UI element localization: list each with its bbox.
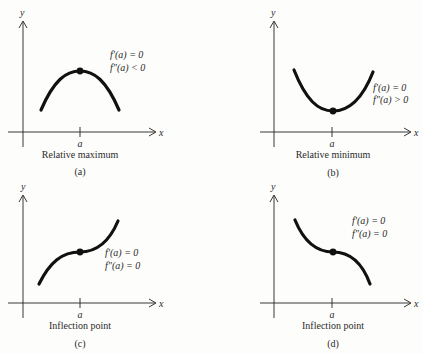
x-axis-label: x: [158, 127, 164, 138]
condition-second-derivative: f″(a) = 0: [105, 260, 140, 272]
y-axis-label: y: [270, 181, 276, 192]
panel-caption: Relative maximum: [42, 149, 119, 160]
condition-second-derivative: f″(a) < 0: [110, 62, 145, 74]
curve-concave-up: [294, 70, 373, 111]
panel-caption: Relative minimum: [296, 149, 371, 160]
x-axis-label: x: [413, 298, 419, 309]
condition-first-derivative: f′(a) = 0: [373, 82, 406, 94]
panel-d: y x a f′(a) = 0 f″(a) = 0 Inflection poi…: [260, 181, 419, 350]
condition-first-derivative: f′(a) = 0: [352, 215, 385, 227]
tick-label: a: [78, 309, 83, 320]
panel-caption: Inflection point: [49, 320, 111, 331]
critical-point-marker: [330, 249, 337, 256]
y-axis-label: y: [20, 181, 26, 192]
y-axis-label: y: [270, 7, 276, 18]
panel-c: y x a f′(a) = 0 f″(a) = 0 Inflection poi…: [8, 181, 164, 350]
critical-point-marker: [77, 68, 84, 75]
curve-concave-down: [41, 71, 119, 110]
tick-label: a: [78, 138, 83, 149]
condition-second-derivative: f″(a) > 0: [373, 94, 408, 106]
panel-tag: (d): [327, 338, 339, 350]
x-axis-label: x: [158, 298, 164, 309]
panel-a: y x a f′(a) = 0 f″(a) < 0 Relative maxim…: [8, 7, 164, 178]
condition-first-derivative: f′(a) = 0: [110, 49, 143, 61]
x-axis-label: x: [413, 127, 419, 138]
panel-tag: (c): [74, 338, 85, 350]
tick-label: a: [330, 138, 335, 149]
condition-first-derivative: f′(a) = 0: [105, 247, 138, 259]
y-axis-label: y: [19, 7, 25, 18]
critical-point-marker: [77, 249, 84, 256]
critical-point-marker: [330, 108, 337, 115]
figure-critical-points: y x a f′(a) = 0 f″(a) < 0 Relative maxim…: [0, 0, 423, 354]
panel-tag: (b): [327, 167, 339, 179]
condition-second-derivative: f″(a) = 0: [352, 228, 387, 240]
tick-label: a: [330, 309, 335, 320]
panel-tag: (a): [74, 166, 85, 178]
panel-b: y x a f′(a) = 0 f″(a) > 0 Relative minim…: [260, 7, 419, 179]
panel-caption: Inflection point: [302, 320, 364, 331]
